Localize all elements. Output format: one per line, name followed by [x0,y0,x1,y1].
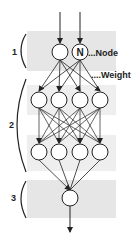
layer-3-brace [21,181,26,218]
layer-3-node [62,190,78,206]
layer-2-node-b1 [31,144,47,160]
layer-1-brace [21,34,26,68]
layer-1-label: 1 [12,47,17,57]
node-annotation: ...Node [88,48,118,58]
layer-1-node-1 [52,44,68,60]
layer-3-label: 3 [11,193,16,203]
layer-2-node-b4 [92,144,108,160]
layer-2-node-a2 [51,92,67,108]
neural-network-diagram: N ...Node ....Weight 1 2 3 [0,0,140,242]
layer-2-node-a4 [92,92,108,108]
layer-2-node-b2 [51,144,67,160]
layer-2-node-a1 [31,92,47,108]
layer-2-node-b3 [72,144,88,160]
layer-2-brace [17,79,26,172]
node-letter: N [76,47,83,58]
layer-2-node-a3 [72,92,88,108]
layer-2-label: 2 [9,120,14,130]
weight-annotation: ....Weight [91,70,131,80]
